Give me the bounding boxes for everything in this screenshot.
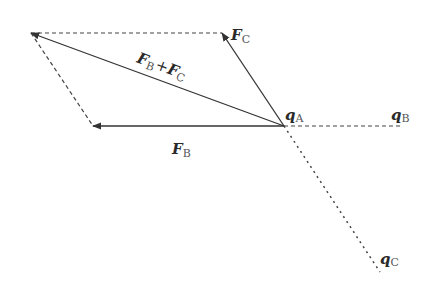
label-FB: FB xyxy=(171,140,191,160)
label-qC: qC xyxy=(380,250,399,269)
line-to-qC-dashed xyxy=(284,126,380,272)
force-FC-arrow xyxy=(222,33,284,126)
force-diagram: FC FB+FC FB qA qB qC xyxy=(0,0,429,290)
label-FB-plus-FC: FB+FC xyxy=(133,49,189,86)
label-qB: qB xyxy=(391,106,410,125)
force-sum-arrow xyxy=(31,33,284,126)
label-qA: qA xyxy=(285,106,305,125)
label-FC: FC xyxy=(230,26,250,46)
parallelogram-left-dashed xyxy=(31,33,93,126)
